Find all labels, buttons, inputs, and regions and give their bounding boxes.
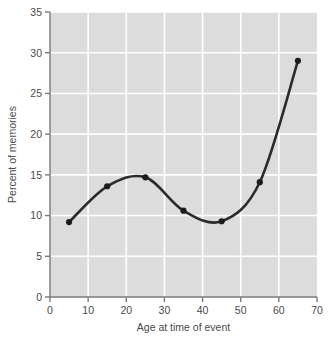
y-tick-label: 30 bbox=[30, 47, 42, 59]
x-tick-label: 60 bbox=[273, 304, 285, 316]
data-point-marker bbox=[66, 219, 72, 225]
y-axis-title: Percent of memories bbox=[6, 106, 18, 203]
x-axis-title: Age at time of event bbox=[137, 321, 230, 333]
plot-area-background bbox=[50, 12, 317, 297]
data-point-marker bbox=[142, 174, 148, 180]
y-tick-label: 0 bbox=[36, 291, 42, 303]
data-point-marker bbox=[104, 183, 110, 189]
y-tick-label: 5 bbox=[36, 250, 42, 262]
y-tick-label: 35 bbox=[30, 6, 42, 18]
x-tick-label: 30 bbox=[159, 304, 171, 316]
data-point-marker bbox=[180, 208, 186, 214]
memory-percent-line-chart: 05101520253035 010203040506070 Age at ti… bbox=[0, 0, 335, 337]
x-tick-label: 50 bbox=[235, 304, 247, 316]
x-tick-label: 20 bbox=[120, 304, 132, 316]
y-tick-label: 20 bbox=[30, 128, 42, 140]
x-tick-label: 10 bbox=[82, 304, 94, 316]
data-point-marker bbox=[295, 58, 301, 64]
chart-container: 05101520253035 010203040506070 Age at ti… bbox=[0, 0, 335, 337]
data-point-marker bbox=[219, 218, 225, 224]
y-tick-label: 10 bbox=[30, 209, 42, 221]
data-point-marker bbox=[257, 179, 263, 185]
y-tick-label: 25 bbox=[30, 87, 42, 99]
x-tick-label: 0 bbox=[47, 304, 53, 316]
x-tick-label: 70 bbox=[311, 304, 323, 316]
y-tick-label: 15 bbox=[30, 169, 42, 181]
x-tick-label: 40 bbox=[197, 304, 209, 316]
